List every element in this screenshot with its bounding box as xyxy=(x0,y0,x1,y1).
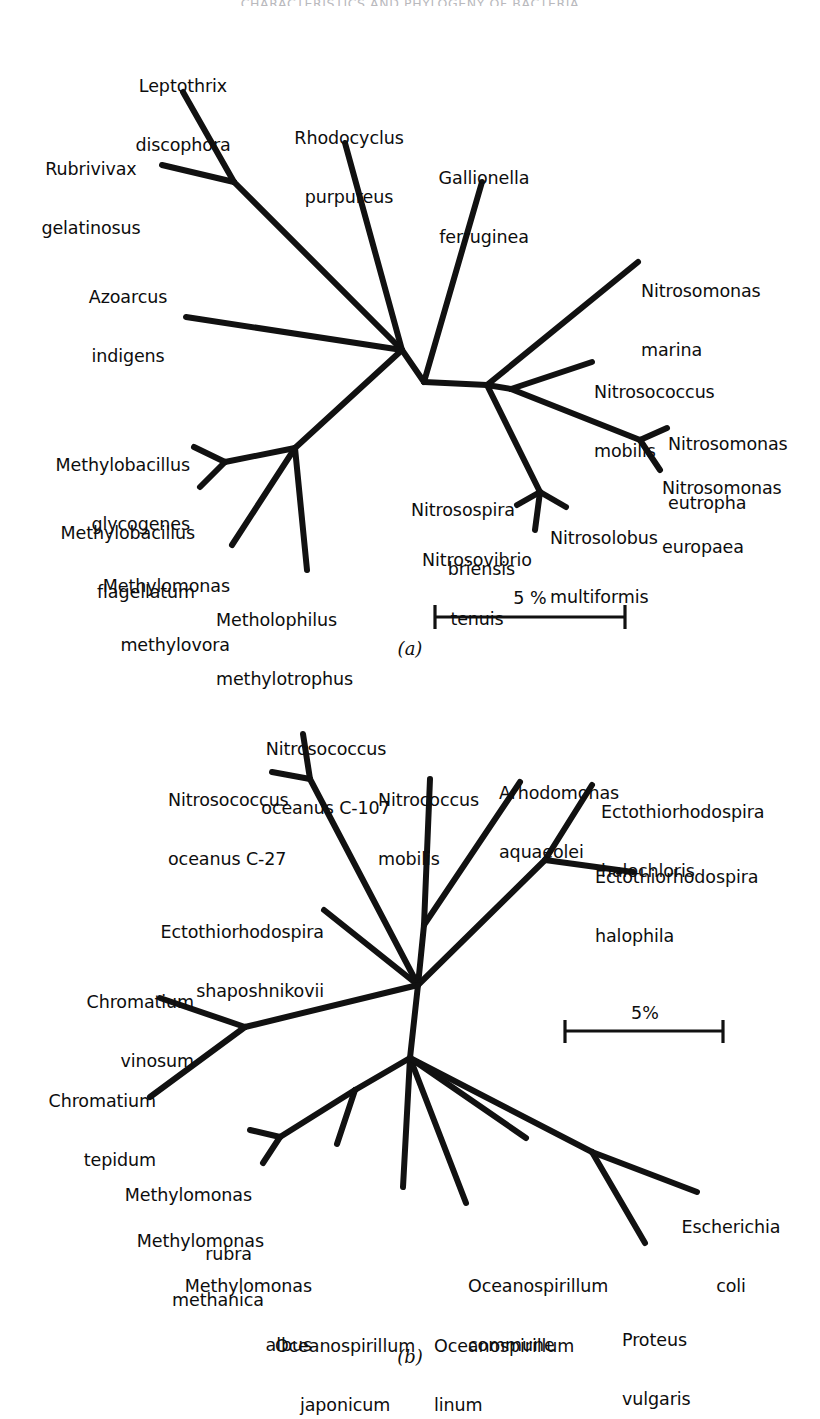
taxon-line-1: Chromatium xyxy=(24,1092,156,1112)
taxon-line-1: Methylomonas xyxy=(160,1277,312,1297)
branch-nitrosococcus-mobilis xyxy=(511,362,592,389)
taxon-line-1: Nitrosovibrio xyxy=(412,551,542,571)
taxon-line-2: japonicum xyxy=(266,1396,424,1416)
branch-enteric-stem xyxy=(410,1058,592,1152)
branch-metholophilus xyxy=(295,448,307,570)
taxon-ectothiorhodospira-halophila: Ectothiorhodospira halophila xyxy=(595,829,795,986)
taxon-line-1: Escherichia xyxy=(672,1218,790,1238)
panel-a-caption: (a) xyxy=(0,638,820,659)
panel-b-caption: (b) xyxy=(0,1346,820,1367)
branch-center-to-gallionella-node xyxy=(402,350,424,382)
taxon-line-2: oceanus C-27 xyxy=(168,850,348,870)
taxon-azoarcus-indigens: Azoarcus indigens xyxy=(72,249,184,406)
panel-b-scale-label: 5% xyxy=(580,1003,710,1023)
branch-methylobacillus-flagellatum xyxy=(200,462,225,487)
taxon-gallionella-ferruginea: Gallionella ferruginea xyxy=(424,130,544,287)
taxon-nitrosolobus-multiformis: Nitrosolobus multiformis xyxy=(550,490,710,647)
branch-methylomonas-methanica xyxy=(263,1137,280,1163)
taxon-line-2: halophila xyxy=(595,927,795,947)
taxon-line-2: tenuis xyxy=(412,610,542,630)
branch-ecto-shaposhnikovii xyxy=(324,910,418,985)
branch-oceano-japonicum xyxy=(403,1058,410,1187)
branch-center-spine xyxy=(410,985,418,1058)
panel-a-scale-label: 5 % xyxy=(460,588,600,608)
taxon-line-1: Nitrosococcus xyxy=(168,791,348,811)
branch-methylo-stem xyxy=(295,350,402,448)
taxon-line-1: Rhodocyclus xyxy=(288,129,410,149)
taxon-line-1: Methylomonas xyxy=(62,577,230,597)
branch-methylomonas-stem xyxy=(355,1058,410,1090)
taxon-line-2: mobilis xyxy=(378,850,518,870)
taxon-line-1: Oceanospirillum xyxy=(468,1277,626,1297)
taxon-line-1: Nitrosomonas xyxy=(641,282,811,302)
taxon-line-2: gelatinosus xyxy=(20,219,162,239)
taxon-line-1: Gallionella xyxy=(424,169,544,189)
taxon-line-1: Nitrococcus xyxy=(378,791,518,811)
taxon-line-1: Methylobacillus xyxy=(22,456,190,476)
taxon-line-2: indigens xyxy=(72,347,184,367)
taxon-line-2: ferruginea xyxy=(424,228,544,248)
taxon-line-1: Chromatium xyxy=(62,993,194,1013)
taxon-line-2: vulgaris xyxy=(622,1390,732,1410)
taxon-line-1: Nitrosolobus xyxy=(550,529,710,549)
branch-methylobacillus-glycogenes xyxy=(194,447,225,462)
taxon-line-1: Ectothiorhodospira xyxy=(601,803,801,823)
taxon-escherichia-coli: Escherichia coli xyxy=(672,1179,790,1336)
panel-b-scale-bar xyxy=(565,1020,723,1043)
branch-methylomonas-rubra xyxy=(250,1130,280,1137)
taxon-oceanospirillum-commune: Oceanospirillum commune xyxy=(468,1238,626,1395)
branch-proteus-vulgaris xyxy=(592,1152,645,1243)
taxon-line-1: Rubrivivax xyxy=(20,160,162,180)
taxon-line-1: Ectothiorhodospira xyxy=(595,868,795,888)
taxon-line-1: Azoarcus xyxy=(72,288,184,308)
taxon-line-1: Leptothrix xyxy=(118,77,248,97)
taxon-line-2: coli xyxy=(672,1277,790,1297)
taxon-nitrococcus-mobilis: Nitrococcus mobilis xyxy=(378,752,518,909)
taxon-rhodocyclus-purpureus: Rhodocyclus purpureus xyxy=(288,90,410,247)
taxon-line-2: linum xyxy=(434,1396,592,1416)
branch-methylomonas-methylovora xyxy=(232,448,295,545)
taxon-line-1: Ectothiorhodospira xyxy=(128,923,324,943)
branch-azoarcus xyxy=(186,317,402,350)
branch-center-to-right-node xyxy=(424,382,487,385)
taxon-line-2: purpureus xyxy=(288,188,410,208)
